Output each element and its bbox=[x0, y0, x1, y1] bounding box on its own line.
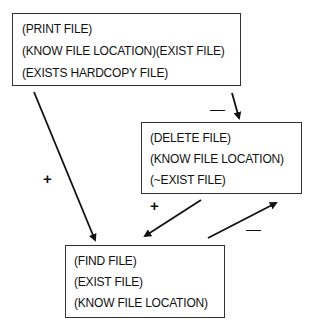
node-print-file: (PRINT FILE) (KNOW FILE LOCATION)(EXIST … bbox=[12, 13, 241, 86]
node-delete-file: (DELETE FILE) (KNOW FILE LOCATION) (~EXI… bbox=[141, 122, 302, 194]
edge-find-to-delete bbox=[208, 203, 276, 238]
edge-sign-print-delete: — bbox=[210, 100, 225, 117]
edge-print-to-delete bbox=[232, 93, 239, 118]
node-line: (EXIST FILE) bbox=[74, 275, 143, 289]
node-line: (KNOW FILE LOCATION) bbox=[150, 152, 284, 166]
node-line: (KNOW FILE LOCATION) bbox=[74, 296, 208, 310]
edge-print-to-find bbox=[34, 92, 95, 240]
node-find-file: (FIND FILE) (EXIST FILE) (KNOW FILE LOCA… bbox=[65, 245, 225, 318]
node-line: (FIND FILE) bbox=[74, 254, 136, 268]
node-line: (PRINT FILE) bbox=[22, 22, 92, 36]
edge-sign-print-find: + bbox=[43, 170, 52, 187]
node-line: (DELETE FILE) bbox=[150, 131, 231, 145]
edge-sign-find-delete: — bbox=[246, 220, 261, 237]
node-line: (~EXIST FILE) bbox=[150, 173, 226, 187]
edge-sign-delete-find: + bbox=[150, 197, 159, 214]
node-line: (KNOW FILE LOCATION)(EXIST FILE) bbox=[22, 44, 225, 58]
node-line: (EXISTS HARDCOPY FILE) bbox=[22, 66, 168, 80]
